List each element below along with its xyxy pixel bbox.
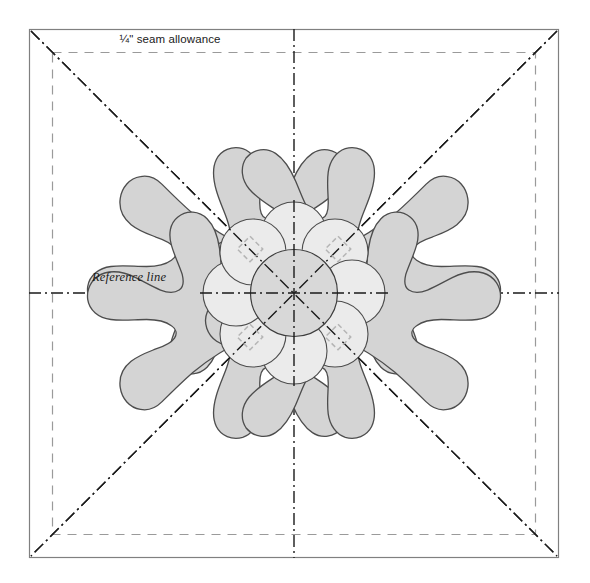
seam-allowance-label: ¼" seam allowance: [119, 33, 220, 45]
applique-block-diagram: ¼" seam allowance Reference line: [0, 0, 590, 583]
reference-line-label: Reference line: [91, 270, 166, 284]
pattern-canvas: ¼" seam allowance Reference line: [0, 0, 590, 583]
